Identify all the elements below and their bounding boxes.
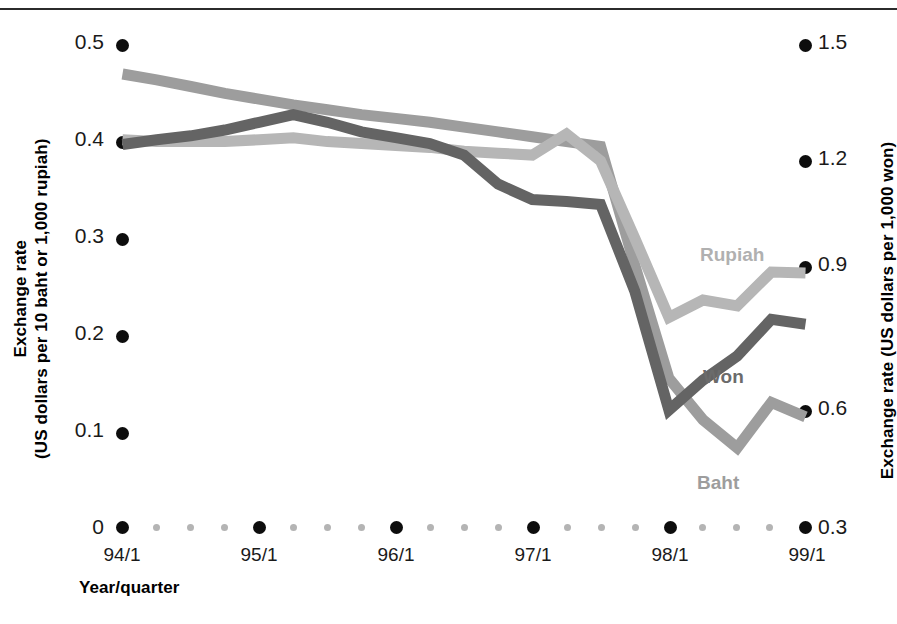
plot-lines xyxy=(0,0,897,624)
series-label-baht: Baht xyxy=(697,472,739,494)
chart-figure: Exchange rate (US dollars per 10 baht or… xyxy=(0,0,897,624)
series-label-rupiah: Rupiah xyxy=(700,244,764,266)
series-label-won: Won xyxy=(703,366,744,388)
